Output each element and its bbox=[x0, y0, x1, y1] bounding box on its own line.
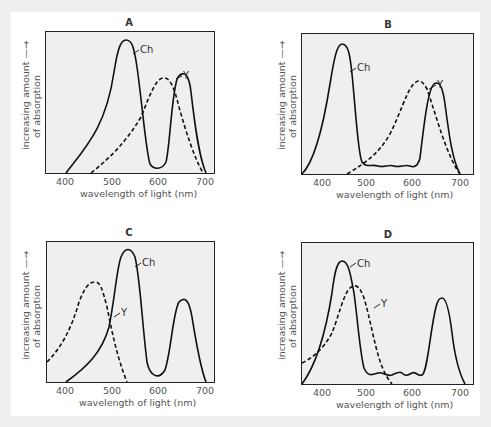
x-tick: 600 bbox=[143, 385, 173, 396]
plot-area: Ch Y bbox=[301, 33, 474, 175]
chart-title: D bbox=[378, 229, 398, 240]
x-tick: 700 bbox=[445, 387, 475, 398]
x-tick: 400 bbox=[307, 177, 337, 188]
x-axis-label: wavelength of light (nm) bbox=[80, 188, 197, 199]
arrow-up-icon: —→ bbox=[276, 251, 287, 268]
arrow-up-icon: —→ bbox=[20, 251, 31, 268]
y-axis-label: increasing amount —→ of absorption bbox=[20, 41, 42, 150]
y-curve bbox=[302, 286, 392, 384]
ch-curve bbox=[66, 250, 206, 383]
label-ch: Ch bbox=[357, 258, 370, 269]
x-tick: 500 bbox=[351, 387, 381, 398]
ch-curve bbox=[302, 261, 465, 384]
x-tick: 700 bbox=[445, 177, 475, 188]
y-curve bbox=[91, 78, 203, 173]
x-tick: 500 bbox=[351, 177, 381, 188]
plot-area: Ch Y bbox=[46, 241, 215, 383]
x-tick: 700 bbox=[190, 385, 220, 396]
x-tick: 400 bbox=[50, 176, 80, 187]
x-tick: 700 bbox=[190, 176, 220, 187]
x-tick: 600 bbox=[143, 176, 173, 187]
arrow-up-icon: —→ bbox=[20, 41, 31, 58]
x-tick: 600 bbox=[397, 387, 427, 398]
arrow-up-icon: —→ bbox=[276, 41, 287, 58]
ch-curve bbox=[66, 40, 206, 173]
y-axis-label: increasing amount —→ of absorption bbox=[276, 41, 298, 150]
chart-title: C bbox=[119, 227, 139, 238]
x-axis-label: wavelength of light (nm) bbox=[79, 397, 196, 408]
label-y: Y bbox=[436, 79, 444, 90]
y-axis-label: increasing amount —→ of absorption bbox=[276, 251, 298, 360]
x-axis-label: wavelength of light (nm) bbox=[336, 189, 453, 200]
x-tick: 500 bbox=[97, 385, 127, 396]
x-tick: 500 bbox=[97, 176, 127, 187]
x-tick: 400 bbox=[50, 385, 80, 396]
chart-title: A bbox=[119, 17, 139, 28]
chart-title: B bbox=[378, 19, 398, 30]
ch-curve bbox=[302, 44, 460, 174]
plot-svg: Ch Y bbox=[302, 243, 473, 384]
x-axis-label: wavelength of light (nm) bbox=[336, 399, 453, 410]
plot-area: Ch Y bbox=[45, 31, 215, 174]
x-tick: 400 bbox=[307, 387, 337, 398]
plot-svg: Ch Y bbox=[302, 34, 473, 174]
label-y: Y bbox=[120, 307, 128, 318]
label-ch: Ch bbox=[142, 257, 155, 268]
label-ch: Ch bbox=[140, 44, 153, 55]
label-y: Y bbox=[182, 70, 190, 81]
x-tick: 600 bbox=[397, 177, 427, 188]
y-curve bbox=[47, 282, 127, 382]
plot-svg: Ch Y bbox=[47, 242, 214, 382]
label-ch: Ch bbox=[357, 62, 370, 73]
y-axis-label: increasing amount —→ of absorption bbox=[20, 251, 42, 360]
plot-svg: Ch Y bbox=[46, 32, 214, 173]
label-y: Y bbox=[380, 298, 388, 309]
plot-area: Ch Y bbox=[301, 242, 474, 385]
